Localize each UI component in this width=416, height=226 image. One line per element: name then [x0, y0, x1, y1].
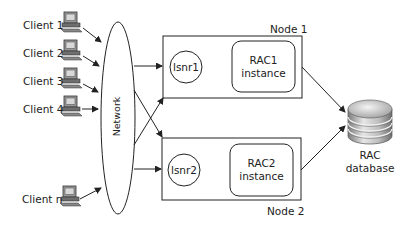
computer-icon [61, 68, 82, 88]
rac-architecture-diagram: Client 1 Client 2 Client 3 Client 4 Clie… [0, 0, 416, 226]
computer-icon [61, 40, 82, 60]
rac1-name: RAC1 [232, 54, 295, 67]
client-arrows [80, 28, 101, 199]
database-label-line1: RAC [345, 149, 395, 162]
network-label: Network [111, 97, 122, 137]
rac2-instance-text: instance [230, 170, 293, 183]
network-arrows [134, 66, 163, 169]
listener-1-label: lsnr1 [170, 61, 202, 74]
rac2-name: RAC2 [230, 157, 293, 170]
rac1-instance-label: RAC1 instance [232, 54, 295, 80]
node-1-label: Node 1 [270, 24, 307, 35]
computer-icon [61, 12, 82, 32]
client-n-label: Client n [22, 194, 62, 205]
client-1-label: Client 1 [23, 20, 63, 31]
database-label-line2: database [345, 162, 395, 175]
database-arrows [301, 67, 345, 170]
database-icon [348, 100, 392, 144]
client-2-label: Client 2 [23, 48, 63, 59]
client-3-label: Client 3 [23, 76, 63, 87]
database-label: RAC database [345, 149, 395, 175]
rac2-instance-label: RAC2 instance [230, 157, 293, 183]
node-2-label: Node 2 [267, 206, 304, 217]
computer-icon [60, 186, 81, 206]
computer-icon [61, 96, 82, 116]
rac1-instance-text: instance [232, 67, 295, 80]
client-4-label: Client 4 [23, 104, 63, 115]
listener-2-label: lsnr2 [168, 164, 200, 177]
